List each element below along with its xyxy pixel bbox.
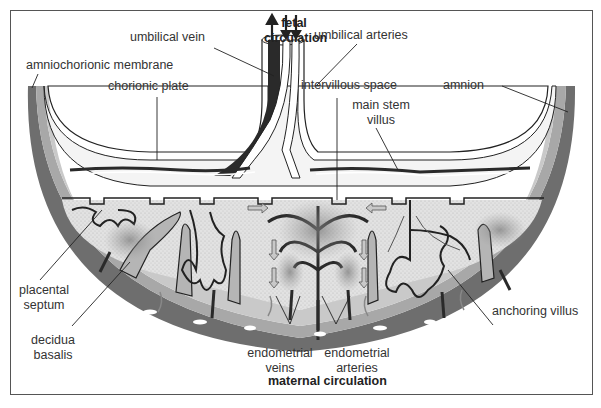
placental-septum-line1: placental (14, 283, 74, 298)
label-amniochorionic-membrane: amniochorionic membrane (26, 58, 173, 73)
label-main-stem-villus: main stem villus (346, 98, 416, 128)
label-endometrial-arteries: endometrial arteries (321, 346, 393, 376)
placental-septum-line2: septum (14, 298, 74, 313)
maternal-circulation-title: maternal circulation (268, 374, 387, 389)
label-anchoring-villus: anchoring villus (492, 304, 578, 319)
endometrial-arteries-line1: endometrial (321, 346, 393, 361)
label-endometrial-veins: endometrial veins (244, 346, 316, 376)
main-stem-villus-line2: villus (346, 113, 416, 128)
label-umbilical-vein: umbilical vein (130, 30, 205, 45)
decidua-basalis-line2: basalis (28, 348, 78, 363)
endometrial-veins-line1: endometrial (244, 346, 316, 361)
label-chorionic-plate: chorionic plate (108, 79, 189, 94)
label-decidua-basalis: decidua basalis (28, 333, 78, 363)
decidua-basalis-line1: decidua (28, 333, 78, 348)
label-umbilical-arteries: umbilical arteries (314, 28, 408, 43)
main-stem-villus-line1: main stem (346, 98, 416, 113)
label-amnion: amnion (443, 78, 484, 93)
label-intervillous-space: intervillous space (301, 78, 397, 93)
label-placental-septum: placental septum (14, 283, 74, 313)
